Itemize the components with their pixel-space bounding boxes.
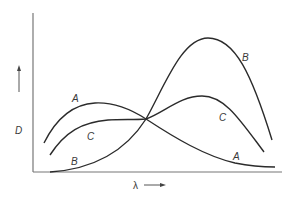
x-axis-label: λ bbox=[133, 180, 138, 191]
label-a-left: A bbox=[71, 93, 79, 104]
x-arrow-icon bbox=[144, 183, 166, 187]
label-c-right: C bbox=[219, 112, 227, 123]
diagram: D λ A A B B C C bbox=[0, 0, 293, 197]
y-axis-label: D bbox=[15, 125, 22, 136]
label-b-right: B bbox=[242, 52, 249, 63]
y-arrow-icon bbox=[17, 65, 21, 92]
label-c-left: C bbox=[87, 131, 95, 142]
label-b-left: B bbox=[71, 156, 78, 167]
label-a-right: A bbox=[232, 151, 240, 162]
